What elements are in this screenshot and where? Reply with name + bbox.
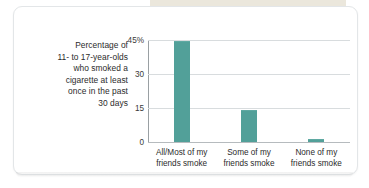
y-axis-line — [148, 40, 149, 142]
y-axis-label-line-2: 11- to 17-year-olds — [24, 52, 128, 64]
x-tick-label-2-line-1: Some of my — [224, 148, 275, 159]
bar-2 — [241, 110, 257, 142]
y-tick-label-0: 0 — [139, 138, 144, 147]
y-axis-label-line-6: 30 days — [24, 98, 128, 110]
bar-3 — [308, 139, 324, 142]
y-axis-label: Percentage of 11- to 17-year-olds who sm… — [24, 40, 128, 110]
bar-1 — [174, 41, 190, 142]
x-tick-label-1-line-1: All/Most of my — [156, 148, 207, 159]
x-tick-label-1-line-2: friends smoke — [156, 159, 207, 170]
x-tick-label-3: None of myfriends smoke — [291, 148, 342, 169]
y-axis-label-line-3: who smoked a — [24, 63, 128, 75]
y-tick-label-45: 45% — [128, 36, 144, 45]
gridline-0: 0 — [148, 142, 350, 143]
x-tick-label-1: All/Most of myfriends smoke — [156, 148, 207, 169]
x-tick-label-3-line-2: friends smoke — [291, 159, 342, 170]
x-tick-label-3-line-1: None of my — [291, 148, 342, 159]
y-axis-label-line-1: Percentage of — [24, 40, 128, 52]
x-tick-label-2-line-2: friends smoke — [224, 159, 275, 170]
chart-screenshot: Percentage of 11- to 17-year-olds who sm… — [0, 0, 369, 188]
plot-area: 0153045%All/Most of myfriends smokeSome … — [148, 40, 350, 142]
bar-chart: Percentage of 11- to 17-year-olds who sm… — [0, 0, 369, 188]
y-axis-label-line-5: once in the past — [24, 86, 128, 98]
y-axis-label-line-4: cigarette at least — [24, 75, 128, 87]
y-tick-label-30: 30 — [135, 70, 144, 79]
x-tick-label-2: Some of myfriends smoke — [224, 148, 275, 169]
y-tick-label-15: 15 — [135, 104, 144, 113]
